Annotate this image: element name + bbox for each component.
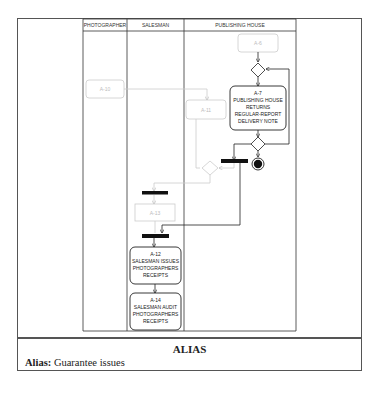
join-bar-salesman — [142, 234, 169, 238]
svg-text:DELIVERY NOTE: DELIVERY NOTE — [238, 118, 278, 124]
svg-text:A-14: A-14 — [150, 297, 161, 303]
svg-text:RECEIPTS: RECEIPTS — [143, 272, 169, 278]
fork-bar-publishing — [221, 159, 248, 163]
swimlanes: PHOTOGRAPHER SALESMAN PUBLISHING HOUSE — [83, 19, 296, 331]
lane-publishing-house: PUBLISHING HOUSE — [215, 22, 265, 28]
svg-text:PHOTOGRAPHERS: PHOTOGRAPHERS — [133, 265, 179, 271]
node-a12: A-12 SALESMAN ISSUES PHOTOGRAPHERS RECEI… — [130, 247, 181, 284]
svg-text:RETURNS: RETURNS — [246, 104, 271, 110]
activity-diagram: PHOTOGRAPHER SALESMAN PUBLISHING HOUSE A… — [0, 0, 379, 396]
svg-text:SALESMAN ISSUES: SALESMAN ISSUES — [132, 258, 180, 264]
svg-text:REGULAR-REPORT: REGULAR-REPORT — [235, 111, 282, 117]
lane-photographer: PHOTOGRAPHER — [84, 22, 127, 28]
node-a10: A-10 — [86, 80, 124, 98]
alias-title: ALIAS — [18, 343, 361, 355]
svg-text:PHOTOGRAPHERS: PHOTOGRAPHERS — [133, 311, 179, 317]
svg-text:A-13: A-13 — [150, 210, 161, 216]
alias-section: ALIAS Alias: Guarantee issues — [17, 338, 362, 371]
svg-text:RECEIPTS: RECEIPTS — [143, 318, 169, 324]
final-node — [252, 158, 264, 170]
node-a13: A-13 — [135, 204, 175, 221]
svg-text:A-10: A-10 — [100, 86, 111, 92]
svg-text:A-12: A-12 — [150, 251, 161, 257]
node-a11: A-11 — [186, 100, 226, 119]
merge-diamond-top — [251, 63, 265, 77]
lane-salesman: SALESMAN — [142, 22, 170, 28]
node-a6: A-6 — [238, 34, 278, 52]
alias-value: Guarantee issues — [54, 357, 125, 368]
svg-text:A-7: A-7 — [254, 90, 262, 96]
svg-text:SALESMAN AUDIT: SALESMAN AUDIT — [134, 304, 177, 310]
node-a14: A-14 SALESMAN AUDIT PHOTOGRAPHERS RECEIP… — [130, 293, 181, 330]
fork-bar-salesman-top — [142, 191, 168, 195]
merge-diamond-faint — [202, 161, 218, 175]
svg-text:PUBLISHING HOUSE: PUBLISHING HOUSE — [233, 97, 283, 103]
svg-text:A-6: A-6 — [254, 40, 262, 46]
alias-line: Alias: Guarantee issues — [25, 357, 125, 368]
decision-diamond — [251, 137, 265, 151]
alias-label: Alias: — [25, 357, 51, 368]
svg-text:A-11: A-11 — [201, 107, 211, 113]
node-a7: A-7 PUBLISHING HOUSE RETURNS REGULAR-REP… — [230, 86, 286, 130]
